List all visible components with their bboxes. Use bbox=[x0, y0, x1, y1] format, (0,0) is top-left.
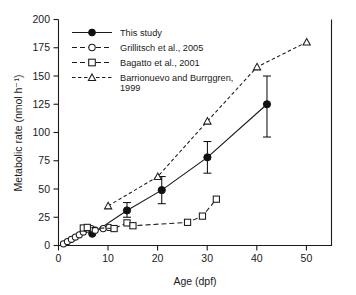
legend: This study Grillitsch et al., 2005 Bagat… bbox=[72, 28, 233, 93]
x-tick-label-20: 20 bbox=[152, 252, 164, 264]
data-point-filled-circle bbox=[204, 154, 211, 161]
series-layer bbox=[60, 39, 310, 247]
x-axis-title: Age (dpf) bbox=[173, 275, 216, 287]
legend-marker-filled-circle bbox=[89, 29, 96, 36]
legend-item-this-study: This study bbox=[72, 28, 162, 38]
legend-item-grillitsch: Grillitsch et al., 2005 bbox=[72, 43, 203, 53]
x-axis-ticks bbox=[59, 246, 307, 251]
data-point-open-square bbox=[111, 225, 117, 231]
legend-item-bagatto: Bagatto et al., 2001 bbox=[72, 58, 200, 68]
chart-canvas: 0 25 50 75 100 125 150 175 200 0 10 20 3… bbox=[0, 0, 356, 295]
data-point-filled-circle bbox=[123, 207, 130, 214]
data-point-open-triangle bbox=[105, 202, 112, 209]
x-axis-tick-labels: 0 10 20 30 40 50 bbox=[56, 252, 313, 264]
data-point-open-square bbox=[213, 196, 219, 202]
data-point-open-square bbox=[184, 219, 190, 225]
y-tick-label-25: 25 bbox=[38, 211, 50, 223]
series-line bbox=[92, 104, 267, 233]
legend-marker-open-circle bbox=[89, 44, 95, 50]
data-point-filled-circle bbox=[158, 187, 165, 194]
y-axis-ticks bbox=[54, 20, 59, 246]
legend-label-grillitsch: Grillitsch et al., 2005 bbox=[120, 43, 203, 53]
legend-label-barrionuevo-year: 1999 bbox=[120, 83, 140, 93]
plot-frame bbox=[59, 20, 332, 246]
data-point-open-triangle bbox=[253, 63, 260, 70]
y-tick-label-175: 175 bbox=[32, 41, 50, 53]
x-tick-label-40: 40 bbox=[251, 252, 263, 264]
data-point-open-square bbox=[124, 220, 130, 226]
legend-label-barrionuevo: Barrionuevo and Burrggren, bbox=[120, 73, 233, 83]
x-tick-label-0: 0 bbox=[56, 252, 62, 264]
y-axis-tick-labels: 0 25 50 75 100 125 150 175 200 bbox=[32, 13, 50, 251]
y-tick-label-200: 200 bbox=[32, 13, 50, 25]
data-point-open-triangle bbox=[204, 118, 211, 125]
y-tick-label-125: 125 bbox=[32, 98, 50, 110]
y-tick-label-0: 0 bbox=[44, 239, 50, 251]
y-tick-label-100: 100 bbox=[32, 126, 50, 138]
metabolic-rate-chart: 0 25 50 75 100 125 150 175 200 0 10 20 3… bbox=[0, 0, 356, 295]
x-tick-label-10: 10 bbox=[102, 252, 114, 264]
series-this-study bbox=[89, 76, 271, 237]
legend-item-barrionuevo: Barrionuevo and Burrggren, 1999 bbox=[72, 73, 233, 93]
legend-label-this-study: This study bbox=[120, 28, 162, 38]
y-axis-title: Metabolic rate (nmol h⁻¹) bbox=[12, 75, 24, 192]
y-tick-label-75: 75 bbox=[38, 154, 50, 166]
y-tick-label-50: 50 bbox=[38, 183, 50, 195]
y-tick-label-150: 150 bbox=[32, 70, 50, 82]
data-point-filled-circle bbox=[263, 101, 270, 108]
data-point-open-square bbox=[199, 213, 205, 219]
legend-label-bagatto: Bagatto et al., 2001 bbox=[120, 58, 200, 68]
data-point-open-triangle bbox=[303, 39, 310, 46]
x-tick-label-30: 30 bbox=[201, 252, 213, 264]
series-line bbox=[83, 199, 216, 228]
x-tick-label-50: 50 bbox=[301, 252, 313, 264]
data-point-open-square bbox=[84, 224, 90, 230]
data-point-open-square bbox=[130, 223, 136, 229]
legend-marker-open-triangle bbox=[88, 74, 95, 81]
legend-marker-open-square bbox=[89, 59, 96, 66]
